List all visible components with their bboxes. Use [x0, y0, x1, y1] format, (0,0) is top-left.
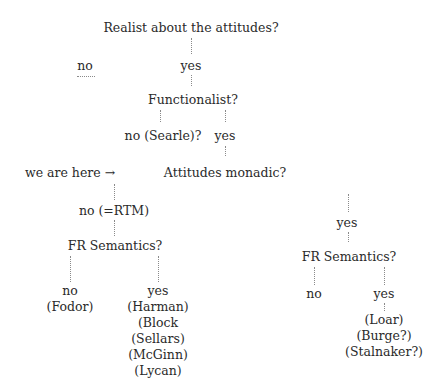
edge-monadic-no [114, 184, 116, 200]
fr-left-yes-name: (Lycan) [127, 363, 188, 379]
fr-left-yes-name: (Harman) [127, 299, 188, 315]
edge-fr-right-no [314, 267, 316, 285]
fr-left-no-label: no [47, 283, 94, 299]
fr-left-yes-name: (McGinn) [127, 347, 188, 363]
fr-right-yes-name: (Burge?) [345, 328, 423, 344]
node-monadic-question: Attitudes monadic? [164, 165, 286, 180]
node-fr-semantics-right: FR Semantics? [302, 249, 397, 264]
node-functionalist-yes: yes [215, 128, 236, 143]
edge-fr-right-yes-names [384, 303, 386, 311]
edge-functionalist-no [160, 110, 162, 122]
edge-fr-left-no [70, 256, 72, 282]
node-fr-left-yes: yes (Harman) (Block (Sellars) (McGinn) (… [127, 283, 188, 379]
fr-left-no-name: (Fodor) [47, 299, 94, 315]
we-are-here-marker: we are here → [25, 165, 115, 180]
node-realist-no: no [77, 58, 93, 73]
node-monadic-yes: yes [337, 215, 358, 230]
fr-left-yes-label: yes [127, 283, 188, 299]
edge-root-yes [191, 38, 193, 54]
edge-monadic-yes-fr [348, 232, 350, 242]
edge-yes-monadic [225, 146, 227, 156]
node-realist-yes: yes [181, 58, 202, 73]
node-functionalist-no: no (Searle)? [125, 128, 202, 143]
edge-rtm-fr [114, 220, 116, 236]
node-monadic-no-rtm: no (=RTM) [79, 203, 149, 218]
node-fr-left-no: no (Fodor) [47, 283, 94, 315]
node-functionalist-question: Functionalist? [148, 92, 238, 107]
fr-left-yes-name: (Sellars) [127, 331, 188, 347]
node-fr-right-no: no [306, 286, 322, 301]
edge-fr-right-yes [384, 267, 386, 285]
node-fr-right-yes: yes [374, 286, 395, 301]
edge-functionalist-yes [225, 110, 227, 122]
node-realist-question: Realist about the attitudes? [103, 20, 278, 35]
fr-right-yes-names: (Loar) (Burge?) (Stalnaker?) [345, 312, 423, 360]
fr-right-yes-name: (Stalnaker?) [345, 344, 423, 360]
edge-monadic-yes [348, 194, 350, 212]
edge-fr-left-yes [158, 256, 160, 282]
fr-left-yes-name: (Block [127, 315, 188, 331]
edge-root-no-continuation [77, 76, 95, 78]
node-fr-semantics-left: FR Semantics? [68, 238, 163, 253]
edge-yes-functionalist [191, 75, 193, 86]
fr-right-yes-name: (Loar) [345, 312, 423, 328]
